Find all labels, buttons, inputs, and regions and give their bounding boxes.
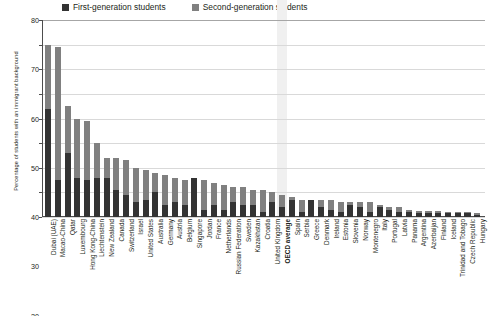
x-axis-label: Spain: [295, 219, 301, 235]
bar-group: [396, 207, 402, 217]
x-axis-label: Argentina: [421, 219, 427, 246]
x-axis-label: Sweden: [246, 219, 252, 242]
bar-segment-second-generation: [123, 160, 129, 194]
chart-legend: First-generation students Second-generat…: [62, 3, 307, 11]
bar-group: [386, 207, 392, 217]
bar-segment-first-generation: [425, 213, 431, 217]
bar-group: [269, 192, 275, 217]
bar-group: [230, 187, 236, 217]
bar-group: [416, 211, 422, 217]
bar-segment-first-generation: [386, 210, 392, 217]
bar-segment-first-generation: [172, 202, 178, 217]
bar-group: [279, 195, 285, 217]
plot-area: 01020304050607080: [42, 20, 485, 217]
x-axis-label: Azerbaijan: [431, 219, 437, 249]
legend-swatch-second-generation: [192, 4, 199, 11]
x-axis-label: Netherlands: [226, 219, 232, 253]
bar-group: [338, 202, 344, 217]
bar-segment-first-generation: [347, 205, 353, 217]
bar-segment-first-generation: [377, 207, 383, 217]
bar-group: [74, 119, 80, 217]
bar-segment-second-generation: [260, 190, 266, 212]
bar-segment-first-generation: [94, 178, 100, 217]
bar-segment-first-generation: [74, 178, 80, 217]
bar-segment-second-generation: [94, 143, 100, 177]
bar-group: [308, 200, 314, 217]
bar-group: [367, 202, 373, 217]
bar-segment-second-generation: [182, 180, 188, 205]
bar-segment-second-generation: [74, 119, 80, 178]
bar-group: [172, 178, 178, 217]
bar-segment-first-generation: [416, 213, 422, 217]
bar-segment-first-generation: [152, 192, 158, 217]
bar-segment-second-generation: [104, 158, 110, 178]
y-tick-label-60: 60: [31, 114, 39, 123]
bar-segment-second-generation: [250, 190, 256, 205]
bar-segment-second-generation: [65, 106, 71, 153]
bar-group: [191, 178, 197, 217]
bar-segment-first-generation: [211, 205, 217, 217]
bar-segment-first-generation: [230, 202, 236, 217]
x-axis-label: Norway: [363, 219, 369, 241]
x-axis-label: Finland: [441, 219, 447, 240]
bar-segment-second-generation: [299, 200, 305, 212]
bar-segment-first-generation: [191, 178, 197, 217]
bar-group: [474, 213, 480, 217]
bar-segment-second-generation: [230, 187, 236, 202]
bar-group: [347, 202, 353, 217]
bar-segment-first-generation: [435, 213, 441, 217]
bar-segment-first-generation: [201, 210, 207, 217]
bar-segment-first-generation: [45, 109, 51, 217]
bar-group: [104, 158, 110, 217]
bar-segment-first-generation: [55, 180, 61, 217]
bar-segment-first-generation: [240, 205, 246, 217]
x-axis-label: Dubai (UAE): [51, 219, 57, 255]
bar-segment-second-generation: [269, 192, 275, 202]
bar-segment-second-generation: [201, 180, 207, 210]
x-axis-label: Ireland: [334, 219, 340, 239]
bar-group: [318, 200, 324, 217]
legend-swatch-first-generation: [62, 4, 69, 11]
bar-group: [299, 200, 305, 217]
x-axis-label: Germany: [168, 219, 174, 245]
x-axis-label: Portugal: [392, 219, 398, 243]
bar-segment-second-generation: [221, 185, 227, 210]
legend-label-first-generation: First-generation students: [73, 3, 166, 11]
bar-segment-second-generation: [338, 202, 344, 212]
bar-group: [55, 47, 61, 217]
x-axis-label: New Zealand: [109, 219, 115, 257]
bar-segment-second-generation: [143, 170, 149, 200]
x-axis-label: Italy: [382, 219, 388, 231]
bar-segment-second-generation: [113, 158, 119, 190]
bar-group: [201, 180, 207, 217]
x-axis-label: Hong Kong-China: [90, 219, 96, 270]
bar-segment-first-generation: [455, 213, 461, 217]
x-axis-label: Panama: [412, 219, 418, 243]
bar-segment-first-generation: [318, 207, 324, 217]
legend-item-first-generation: First-generation students: [62, 3, 166, 11]
bar-group: [152, 173, 158, 217]
bar-group: [328, 200, 334, 217]
bar-group: [143, 170, 149, 217]
x-axis-label: France: [216, 219, 222, 239]
bar-segment-first-generation: [221, 210, 227, 217]
bar-segment-first-generation: [250, 205, 256, 217]
x-axis-label: Singapore: [197, 219, 203, 248]
bar-group: [162, 175, 168, 217]
bar-group: [123, 160, 129, 217]
x-axis-label: Jordan: [207, 219, 213, 239]
bar-segment-first-generation: [357, 207, 363, 217]
x-axis-labels: Dubai (UAE)Macao-ChinaQatarLuxembourgHon…: [42, 219, 485, 316]
bar-segment-first-generation: [406, 212, 412, 217]
bar-segment-first-generation: [299, 212, 305, 217]
bar-group: [221, 185, 227, 217]
bar-group: [84, 121, 90, 217]
y-tick-label-40: 40: [31, 213, 39, 222]
x-axis-label: United States: [148, 219, 154, 257]
bar-segment-first-generation: [65, 153, 71, 217]
bar-segment-second-generation: [162, 175, 168, 205]
bar-group: [260, 190, 266, 217]
bar-group: [377, 205, 383, 217]
legend-label-second-generation: Second-generation students: [203, 3, 308, 11]
x-axis-label: Qatar: [70, 219, 76, 235]
